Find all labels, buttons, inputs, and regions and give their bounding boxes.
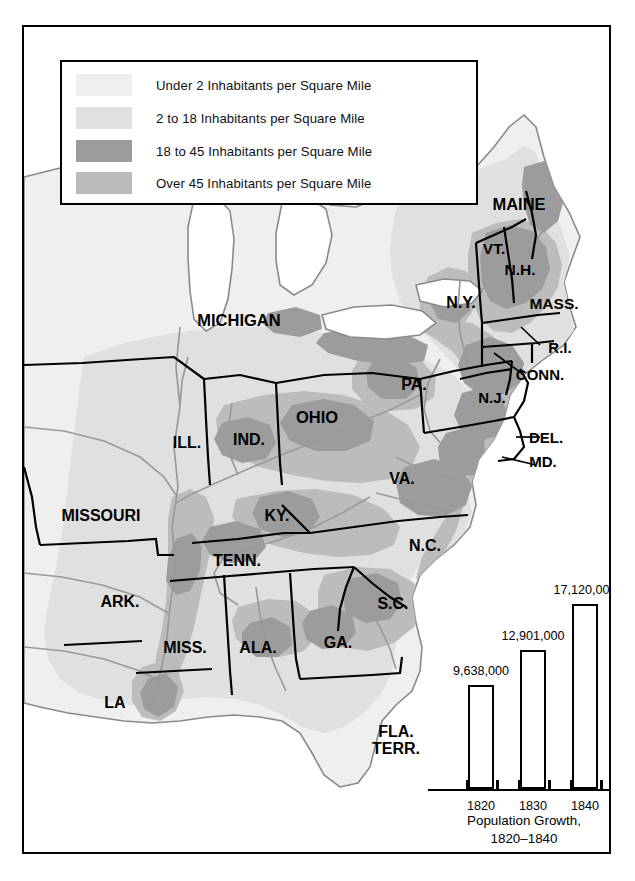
state-label-ala: ALA. [239,640,276,657]
legend-item-1: 2 to 18 Inhabitants per Square Mile [76,105,365,131]
state-label-miss: MISS. [163,640,207,657]
state-label-ark: ARK. [100,594,139,611]
legend-label-2-to-18: 2 to 18 Inhabitants per Square Mile [156,111,365,126]
state-label-ill: ILL. [173,435,201,452]
chart-axis-line [428,789,611,792]
legend-label-over-45: Over 45 Inhabitants per Square Mile [156,176,371,191]
state-label-del: DEL. [529,430,563,446]
chart-caption-line-2: 1820–1840 [424,830,611,847]
bar-value-1830: 12,901,000 [501,629,564,643]
state-label-vt: VT. [483,241,505,257]
state-label-ga: GA. [324,635,352,652]
state-label-nj: N.J. [478,390,506,406]
bar-value-1840: 17,120,000 [553,583,611,597]
x-tick-1820: 1820 [467,799,495,813]
map-page: Under 2 Inhabitants per Square Mile 2 to… [0,0,635,881]
map-legend: Under 2 Inhabitants per Square Mile 2 to… [60,60,478,205]
population-growth-chart: 9,638,000182012,901,000183017,120,000184… [424,517,611,847]
state-label-ind: IND. [233,432,265,449]
bar-value-1820: 9,638,000 [453,664,509,678]
state-label-tenn: TENN. [213,553,261,570]
legend-swatch-2-to-18 [76,107,132,129]
legend-item-3: Over 45 Inhabitants per Square Mile [76,170,371,196]
legend-label-under-2: Under 2 Inhabitants per Square Mile [156,78,371,93]
state-label-fla-terr: FLA.TERR. [372,724,420,758]
state-label-mass: MASS. [529,296,578,312]
state-label-michigan: MICHIGAN [197,312,280,329]
state-label-nh: N.H. [505,262,536,278]
legend-swatch-under-2 [76,74,132,96]
chart-caption: Population Growth, 1820–1840 [424,812,611,847]
legend-item-2: 18 to 45 Inhabitants per Square Mile [76,138,372,164]
x-tick-1830: 1830 [519,799,547,813]
state-label-ny: N.Y. [446,295,475,312]
bar-1820 [468,685,494,789]
state-label-maine: MAINE [492,196,545,213]
state-label-ri: R.I. [548,340,571,356]
state-label-md: MD. [529,454,557,470]
legend-swatch-over-45 [76,172,132,194]
bar-1840 [572,604,598,789]
chart-caption-line-1: Population Growth, [424,812,611,829]
legend-swatch-18-to-45 [76,140,132,162]
state-label-la: LA [104,695,125,712]
state-label-ky: KY. [265,508,290,525]
legend-item-0: Under 2 Inhabitants per Square Mile [76,72,371,98]
state-label-missouri: MISSOURI [61,508,140,525]
map-frame: Under 2 Inhabitants per Square Mile 2 to… [22,25,611,854]
state-label-conn: CONN. [516,367,564,383]
state-label-pa: PA. [401,377,426,394]
legend-label-18-to-45: 18 to 45 Inhabitants per Square Mile [156,144,372,159]
bar-1830 [520,650,546,789]
state-label-sc: S.C. [377,596,408,613]
x-tick-1840: 1840 [571,799,599,813]
state-label-va: VA. [389,471,414,488]
state-label-ohio: OHIO [296,409,338,426]
